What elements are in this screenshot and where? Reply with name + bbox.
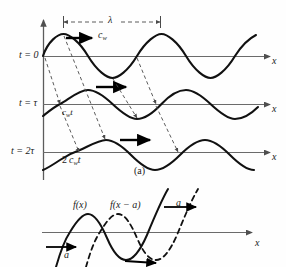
time-label-tau: t = τ <box>19 98 37 108</box>
wavelength-label: λ <box>108 15 112 25</box>
distance-label-2cwt: 2 cwt <box>62 155 81 167</box>
panel-a-graphics <box>0 0 286 185</box>
time-label-2tau: t = 2τ <box>11 146 34 156</box>
label-f-of-x-minus-a: f(x − a) <box>110 200 141 210</box>
shift-label-right: a <box>176 198 181 208</box>
x-axis-label-row3: x <box>272 152 276 162</box>
label-f-of-x: f(x) <box>73 200 87 210</box>
wave-speed-label: cw <box>98 30 107 42</box>
shift-label-left: a <box>64 250 69 260</box>
panel-b-graphics <box>0 185 286 267</box>
panel-b-x-axis-label: x <box>255 238 259 248</box>
distance-label-cwt: cwt <box>62 108 73 119</box>
x-axis-label-row2: x <box>272 104 276 114</box>
x-axis-label-row1: x <box>272 56 276 66</box>
propagation-tracking-lines <box>45 36 178 152</box>
panel-a-caption: (a) <box>134 166 145 176</box>
wave-propagation-figure: t = 0 t = τ t = 2τ λ cw cwt 2 cwt x x x … <box>0 0 286 267</box>
panel-b-shift-arrow-bottom <box>125 261 156 263</box>
time-label-t0: t = 0 <box>19 50 39 60</box>
